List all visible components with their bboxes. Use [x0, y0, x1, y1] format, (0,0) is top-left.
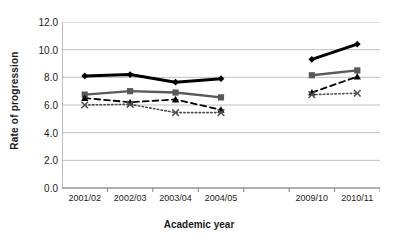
square-marker	[309, 72, 315, 78]
x-axis-tick-label: 2009/10	[296, 193, 329, 203]
diamond-marker	[354, 41, 361, 48]
chart-svg	[62, 22, 380, 196]
triangle-marker	[354, 73, 361, 80]
x-axis-tick-label: 2002/03	[114, 193, 147, 203]
x-axis-tick-label: 2004/05	[205, 193, 238, 203]
series-line	[312, 93, 357, 94]
y-axis-tick-labels: 0.02.04.06.08.010.012.0	[20, 0, 58, 246]
x-axis-tick-labels: 2001/022002/032003/042004/052009/102010/…	[0, 193, 398, 209]
plot-area	[62, 22, 380, 188]
series-line	[85, 75, 221, 83]
square-marker	[127, 88, 133, 94]
diamond-marker	[81, 73, 88, 80]
series-diamond	[81, 41, 360, 86]
square-marker	[172, 89, 178, 95]
y-axis-title-text: Rate of progression	[9, 51, 20, 149]
diamond-marker	[308, 56, 315, 63]
series-x	[81, 90, 360, 116]
x-axis-tick-label: 2010/11	[341, 193, 373, 203]
y-axis-tick-label: 12.0	[24, 17, 58, 28]
y-axis-tick-label: 4.0	[24, 127, 58, 138]
series-line	[312, 77, 357, 93]
y-axis-tick-label: 8.0	[24, 72, 58, 83]
square-marker	[354, 67, 360, 73]
diamond-marker	[218, 75, 225, 82]
square-marker	[218, 94, 224, 100]
x-axis-tick-label: 2001/02	[68, 193, 101, 203]
y-axis-tick-label: 0.0	[24, 183, 58, 194]
series-line	[85, 91, 221, 97]
y-axis-tick-label: 2.0	[24, 155, 58, 166]
series-line	[312, 44, 357, 59]
y-axis-tick-label: 6.0	[24, 100, 58, 111]
series-line	[312, 70, 357, 75]
x-axis-title: Academic year	[0, 219, 398, 230]
series-square	[82, 67, 361, 100]
x-axis-tick-label: 2003/04	[159, 193, 192, 203]
chart-container: Rate of progression 0.02.04.06.08.010.01…	[0, 0, 398, 246]
y-axis-tick-label: 10.0	[24, 44, 58, 55]
diamond-marker	[172, 79, 179, 86]
